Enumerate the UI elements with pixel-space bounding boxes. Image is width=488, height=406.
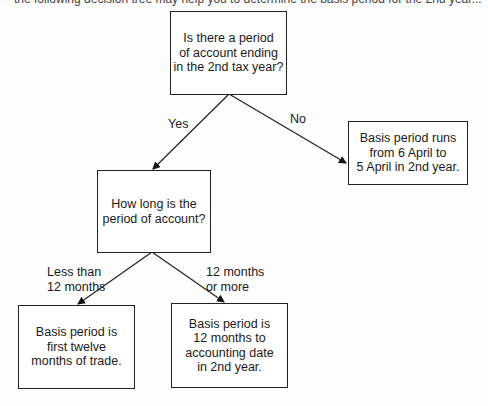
long-result-box: Basis period is 12 months to accounting … bbox=[171, 303, 288, 388]
root-question-box: Is there a period of account ending in t… bbox=[170, 11, 287, 95]
edge-label-yes: Yes bbox=[168, 117, 188, 132]
long-result-text: Basis period is 12 months to accounting … bbox=[185, 317, 273, 375]
no-result-box: Basis period runs from 6 April to 5 Apri… bbox=[348, 121, 468, 185]
edge-label-no: No bbox=[290, 112, 306, 127]
no-result-text: Basis period runs from 6 April to 5 Apri… bbox=[357, 131, 460, 175]
root-question-text: Is there a period of account ending in t… bbox=[174, 31, 284, 75]
short-result-text: Basis period is first twelve months of t… bbox=[31, 325, 121, 369]
length-question-box: How long is the period of account? bbox=[97, 170, 211, 253]
edge-label-more: 12 months or more bbox=[206, 265, 264, 294]
short-result-box: Basis period is first twelve months of t… bbox=[18, 305, 135, 389]
length-question-text: How long is the period of account? bbox=[103, 197, 206, 226]
edge-label-less: Less than 12 months bbox=[47, 265, 105, 294]
